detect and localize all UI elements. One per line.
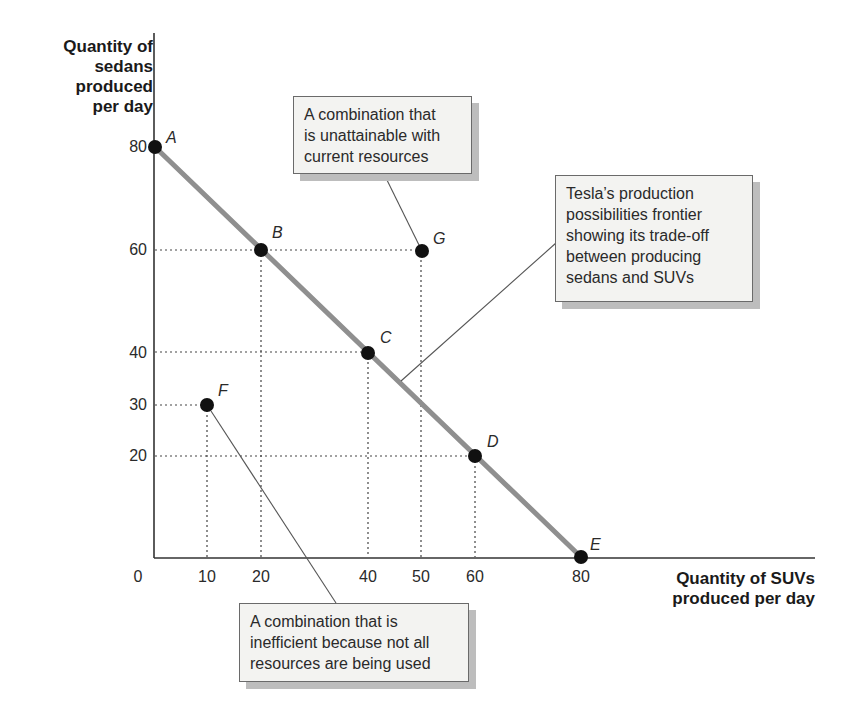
x-tick-60: 60 [455, 568, 495, 586]
point-e [574, 550, 588, 564]
callout-line: current resources [304, 146, 461, 167]
point-label-e: E [590, 536, 601, 554]
callout-line: showing its trade-off [566, 225, 742, 246]
y-axis-title-line: produced [13, 77, 153, 97]
callout-line: inefficient because not all [250, 632, 458, 653]
x-axis-title: Quantity of SUVs produced per day [650, 569, 815, 609]
point-label-g: G [433, 230, 445, 248]
callout-line: possibilities frontier [566, 204, 742, 225]
point-g [415, 244, 429, 258]
y-axis-title-line: Quantity of [13, 37, 153, 57]
y-tick-40: 40 [107, 344, 147, 362]
y-axis-title-line: per day [13, 97, 153, 117]
x-tick-20: 20 [241, 568, 281, 586]
callout-unattainable: A combination that is unattainable with … [293, 96, 472, 174]
callout-line: A combination that is [250, 611, 458, 632]
point-label-d: D [487, 433, 499, 451]
y-tick-20: 20 [107, 447, 147, 465]
x-axis-title-line: Quantity of SUVs [650, 569, 815, 589]
point-c [361, 346, 375, 360]
x-tick-50: 50 [401, 568, 441, 586]
y-axis-title: Quantity of sedans produced per day [13, 37, 153, 117]
point-label-f: F [218, 382, 228, 400]
x-tick-10: 10 [187, 568, 227, 586]
point-label-b: B [272, 224, 283, 242]
x-axis-title-line: produced per day [650, 589, 815, 609]
point-b [254, 243, 268, 257]
y-tick-30: 30 [107, 396, 147, 414]
leader-lines [211, 174, 556, 603]
origin-label: 0 [118, 568, 158, 586]
point-a [148, 140, 162, 154]
callout-line: between producing [566, 246, 742, 267]
callout-line: resources are being used [250, 653, 458, 674]
x-tick-40: 40 [348, 568, 388, 586]
y-tick-80: 80 [107, 138, 147, 156]
callout-line: Tesla’s production [566, 183, 742, 204]
leader-unattainable [384, 174, 419, 245]
y-tick-60: 60 [107, 241, 147, 259]
point-label-a: A [166, 129, 177, 147]
x-tick-80: 80 [561, 568, 601, 586]
y-axis-title-line: sedans [13, 57, 153, 77]
point-f [200, 398, 214, 412]
callout-line: is unattainable with [304, 125, 461, 146]
leader-ppf [401, 243, 556, 381]
point-label-c: C [380, 329, 392, 347]
point-d [468, 449, 482, 463]
callout-line: sedans and SUVs [566, 267, 742, 288]
callout-ppf: Tesla’s production possibilities frontie… [555, 175, 753, 302]
callout-line: A combination that [304, 104, 461, 125]
callout-inefficient: A combination that is inefficient becaus… [239, 603, 469, 682]
